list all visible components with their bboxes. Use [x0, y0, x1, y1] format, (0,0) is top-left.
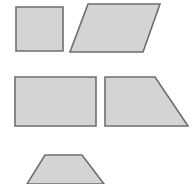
shape-rectangle	[15, 77, 96, 126]
shape-square	[16, 7, 63, 51]
shapes-canvas	[0, 0, 193, 184]
